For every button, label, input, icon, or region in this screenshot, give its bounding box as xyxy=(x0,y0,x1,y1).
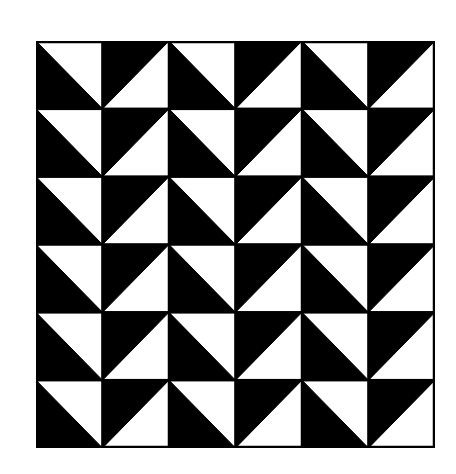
quilt-cell xyxy=(236,312,303,380)
quilt-cell xyxy=(236,380,303,448)
quilt-cell xyxy=(302,245,369,313)
quilt-cell xyxy=(236,41,303,109)
quilt-cell xyxy=(369,380,436,448)
quilt-cell xyxy=(236,245,303,313)
quilt-cell xyxy=(103,177,170,245)
quilt-cell xyxy=(169,245,236,313)
quilt-cell xyxy=(236,177,303,245)
quilt-cell xyxy=(36,312,103,380)
quilt-cell xyxy=(302,109,369,177)
quilt-cell xyxy=(369,109,436,177)
quilt-cell xyxy=(369,41,436,109)
quilt-cell xyxy=(302,41,369,109)
quilt-cell xyxy=(36,380,103,448)
quilt-cell xyxy=(169,109,236,177)
quilt-cell xyxy=(103,41,170,109)
quilt-cell xyxy=(369,245,436,313)
quilt-cell xyxy=(36,245,103,313)
quilt-cell xyxy=(103,109,170,177)
quilt-grid xyxy=(36,41,435,448)
quilt-cell xyxy=(302,177,369,245)
quilt-cell xyxy=(369,177,436,245)
quilt-cell xyxy=(36,41,103,109)
quilt-cell xyxy=(103,380,170,448)
quilt-cell xyxy=(369,312,436,380)
quilt-cell xyxy=(36,177,103,245)
quilt-cell xyxy=(302,380,369,448)
quilt-cell xyxy=(103,312,170,380)
quilt-cell xyxy=(302,312,369,380)
quilt-cell xyxy=(103,245,170,313)
quilt-cell xyxy=(169,380,236,448)
quilt-cell xyxy=(169,312,236,380)
quilt-cell xyxy=(169,41,236,109)
quilt-pattern xyxy=(36,41,435,448)
quilt-cell xyxy=(169,177,236,245)
quilt-cell xyxy=(236,109,303,177)
quilt-cell xyxy=(36,109,103,177)
